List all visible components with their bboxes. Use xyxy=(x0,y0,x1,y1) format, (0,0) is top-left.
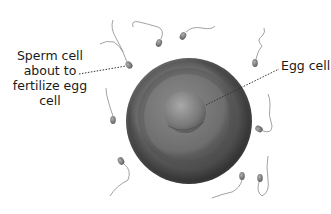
sperm-right xyxy=(254,94,272,134)
sperm-top-2 xyxy=(178,26,215,41)
egg-nucleus xyxy=(164,91,206,133)
sperm-left xyxy=(106,88,116,124)
sperm-label-line-4: cell xyxy=(2,93,98,108)
sperm-top-right xyxy=(252,28,264,67)
sperm-cell-label: Sperm cell about to fertilize egg cell xyxy=(2,48,98,108)
sperm-top-1 xyxy=(133,22,164,48)
sperm-bottom-right-2 xyxy=(257,156,268,196)
sperm-bottom-left xyxy=(110,156,129,196)
sperm-label-line-1: Sperm cell xyxy=(2,48,98,63)
sperm-attached xyxy=(112,20,134,70)
egg-cell-label: Egg cell xyxy=(281,58,330,73)
sperm-label-line-3: fertilize egg xyxy=(2,78,98,93)
sperm-label-line-2: about to xyxy=(2,63,98,78)
sperm-top-left xyxy=(100,41,123,52)
